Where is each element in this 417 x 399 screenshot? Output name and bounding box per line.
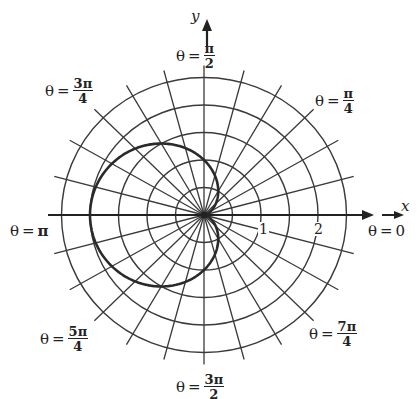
equals-sign: = (188, 47, 201, 65)
x-axis-label: x (401, 197, 409, 215)
grid-radial-line (204, 140, 338, 215)
angle-label-7pi-over-4: θ = 7π 4 (309, 320, 357, 348)
numerator: π (343, 87, 355, 101)
angle-label-pi-over-4: θ = π 4 (315, 87, 354, 115)
equals-sign: = (188, 378, 201, 396)
fraction: 7π 4 (337, 320, 358, 348)
equals-sign: = (57, 82, 70, 100)
theta-symbol: θ (45, 82, 54, 100)
numerator: 7π (337, 320, 358, 334)
theta-symbol: θ (40, 330, 49, 348)
theta-symbol: θ (10, 222, 19, 240)
fraction: π 2 (204, 42, 216, 70)
fraction: 3π 4 (73, 77, 94, 105)
angle-label-pi-over-2: θ = π 2 (176, 42, 215, 70)
grid-radial-line (204, 215, 244, 360)
y-axis-label: y (191, 7, 199, 25)
angle-label-5pi-over-4: θ = 5π 4 (40, 325, 88, 353)
angle-label-zero: θ = 0 (368, 222, 405, 240)
theta-symbol: θ (309, 325, 318, 343)
tick-label-1: 1 (258, 222, 269, 236)
angle-value: π (38, 222, 49, 240)
equals-sign: = (327, 92, 340, 110)
y-axis-arrowhead (202, 19, 212, 31)
equals-sign: = (380, 222, 393, 240)
grid-radial-line (204, 70, 244, 215)
grid-radial-line (54, 215, 204, 254)
origin-point (201, 212, 208, 219)
theta-symbol: θ (176, 47, 185, 65)
fraction: 3π 2 (204, 373, 225, 399)
angle-label-3pi-over-2: θ = 3π 2 (176, 373, 224, 399)
grid-radial-line (204, 215, 354, 254)
grid-radial-line (164, 215, 204, 360)
theta-symbol: θ (315, 92, 324, 110)
numerator: π (204, 42, 216, 56)
angle-label-3pi-over-4: θ = 3π 4 (45, 77, 93, 105)
grid-radial-line (164, 70, 204, 215)
equals-sign: = (22, 222, 35, 240)
tick-label-2: 2 (313, 222, 324, 236)
grid-radial-line (54, 176, 204, 215)
denominator: 4 (342, 334, 351, 348)
angle-value: 0 (396, 222, 406, 240)
x-axis-arrowhead (362, 210, 374, 220)
numerator: 3π (73, 77, 94, 91)
numerator: 3π (204, 373, 225, 387)
equals-sign: = (321, 325, 334, 343)
denominator: 4 (78, 91, 87, 105)
fraction: 5π 4 (68, 325, 89, 353)
denominator: 4 (73, 339, 82, 353)
denominator: 4 (344, 101, 353, 115)
numerator: 5π (68, 325, 89, 339)
denominator: 2 (209, 387, 218, 399)
angle-label-pi: θ = π (10, 222, 49, 240)
theta-symbol: θ (176, 378, 185, 396)
fraction: π 4 (343, 87, 355, 115)
theta-symbol: θ (368, 222, 377, 240)
denominator: 2 (205, 56, 214, 70)
grid-radial-line (204, 176, 354, 215)
equals-sign: = (52, 330, 65, 348)
